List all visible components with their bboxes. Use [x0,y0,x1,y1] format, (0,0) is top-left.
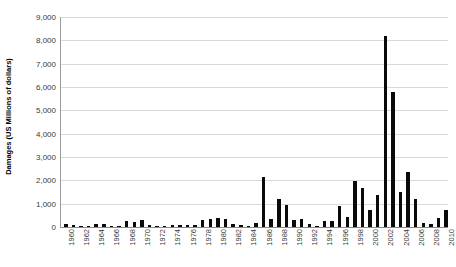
x-axis-tick: 1970 [144,229,152,246]
x-axis-tick: 2008 [433,229,441,246]
bar [292,220,295,227]
bar [269,219,272,227]
x-axis-tick-label: 1982 [235,229,243,246]
x-axis-tick-label: 1996 [342,229,350,246]
x-axis-tick-label: 1974 [174,229,182,246]
x-axis-tick-label: 2008 [433,229,441,246]
x-axis-tick-label: 2006 [418,229,426,246]
bar [361,188,364,227]
x-axis-tick: 1966 [113,229,121,246]
x-axis-tick: 1990 [296,229,304,246]
x-axis-tick: 2002 [387,229,395,246]
x-axis-tick: 1994 [326,229,334,246]
x-axis-tick-label: 2000 [372,229,380,246]
x-axis-tick: 1964 [98,229,106,246]
bar [376,195,379,227]
x-axis-tick-label: 1980 [220,229,228,246]
x-axis-tick-label: 1972 [159,229,167,246]
bar [277,199,280,227]
x-axis-tick: 1988 [281,229,289,246]
x-axis-tick-label: 1990 [296,229,304,246]
y-axis-tick: 1,000 [36,199,56,208]
x-axis-tick-label: 1978 [205,229,213,246]
bar [384,36,387,227]
x-axis-tick-label: 1998 [357,229,365,246]
x-axis-tick: 1974 [174,229,182,246]
y-axis-tick: 7,000 [36,59,56,68]
bar [414,199,417,227]
x-axis-tick-label: 1994 [326,229,334,246]
x-axis-tick: 1992 [311,229,319,246]
x-axis-tick: 2006 [418,229,426,246]
y-axis-tick: 5,000 [36,106,56,115]
x-axis-tick: 1982 [235,229,243,246]
x-axis-tick-label: 1962 [83,229,91,246]
x-axis-tick-label: 1976 [190,229,198,246]
y-axis-tick: 9,000 [36,13,56,22]
y-axis-tick: 8,000 [36,36,56,45]
y-axis-title: Damages (US Millions of dollars) [0,0,16,232]
bar [140,220,143,227]
bar [399,192,402,227]
y-axis-tick: 0 [52,223,56,232]
x-axis-tick: 1960 [68,229,76,246]
bar [444,210,447,228]
x-axis-tick: 2000 [372,229,380,246]
bar [300,219,303,227]
bar [262,177,265,227]
bar [201,220,204,227]
x-axis-tick-label: 1984 [250,229,258,246]
bar [346,217,349,227]
bar [209,219,212,227]
bar [285,205,288,227]
plot-area [60,17,448,228]
x-axis-tick-label: 2002 [387,229,395,246]
x-axis-tick-label: 1970 [144,229,152,246]
x-axis-tick-label: 1964 [98,229,106,246]
bar [216,218,219,227]
x-axis-tick: 1972 [159,229,167,246]
y-axis-tick: 6,000 [36,83,56,92]
x-axis-tick-label: 1966 [113,229,121,246]
x-axis-tick: 1986 [266,229,274,246]
x-axis-tick: 1968 [129,229,137,246]
x-axis-tick-label: 2004 [403,229,411,246]
bar [224,219,227,227]
x-axis-tick: 1976 [190,229,198,246]
y-axis-title-label: Damages (US Millions of dollars) [4,58,13,175]
x-axis-tick: 1984 [250,229,258,246]
y-axis-tick-labels: 01,0002,0003,0004,0005,0006,0007,0008,00… [16,0,60,240]
bar [353,181,356,227]
x-axis-tick-label: 1968 [129,229,137,246]
x-axis-tick: 2010 [448,229,456,246]
x-axis-tick-label: 1960 [68,229,76,246]
bars-layer [61,17,448,228]
x-axis-tick: 1978 [205,229,213,246]
y-axis-tick: 4,000 [36,129,56,138]
bar [391,92,394,227]
x-axis-baseline [61,227,448,228]
bar [406,172,409,227]
y-axis-tick: 3,000 [36,153,56,162]
bar [338,206,341,227]
x-axis-tick: 2004 [403,229,411,246]
bar [368,210,371,227]
x-axis-tick-labels: 1960196219641966196819701972197419761978… [60,229,448,267]
bar [437,218,440,227]
y-axis-tick: 2,000 [36,176,56,185]
x-axis-tick: 1962 [83,229,91,246]
x-axis-tick-label: 1992 [311,229,319,246]
x-axis-tick: 1980 [220,229,228,246]
x-axis-tick: 1998 [357,229,365,246]
x-axis-tick-label: 1988 [281,229,289,246]
x-axis-tick-label: 2010 [448,229,456,246]
x-axis-tick: 1996 [342,229,350,246]
x-axis-tick-label: 1986 [266,229,274,246]
